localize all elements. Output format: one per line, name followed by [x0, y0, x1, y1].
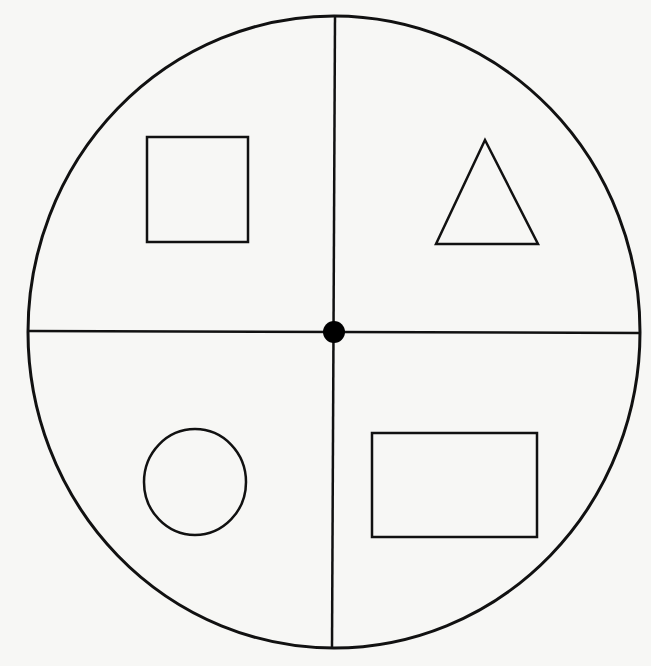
center-dot [323, 321, 345, 343]
quadrant-shapes-diagram [0, 0, 651, 666]
